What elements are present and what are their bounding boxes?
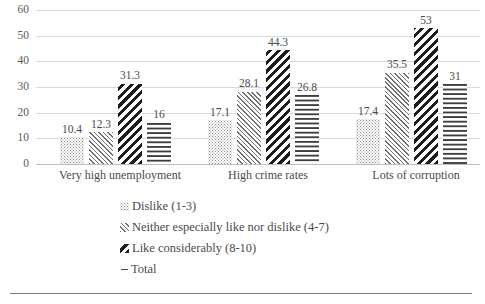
y-tick-label: 20 [18,107,30,119]
y-tick-label: 0 [23,158,29,170]
bar-neither[interactable] [89,132,113,164]
bar-group: 17.1 28.1 44.3 26.8 [204,10,332,164]
bar-total[interactable] [147,123,171,164]
bar-slot[interactable]: 16 [147,10,171,164]
legend-item-dislike[interactable]: Dislike (1-3) [120,196,460,217]
x-label-high-crime-rates: High crime rates [228,168,308,182]
y-tick-label: 40 [18,56,30,68]
y-tick-label: 60 [18,4,30,16]
y-tick-label: 30 [18,81,30,93]
bar-value-label: 26.8 [297,82,317,94]
bar-slot[interactable]: 26.8 [295,10,319,164]
bar-slot[interactable]: 44.3 [266,10,290,164]
dots-swatch-icon [120,202,129,211]
bar-dislike[interactable] [356,119,380,164]
y-axis: 60 50 40 30 20 10 0 [0,0,36,164]
x-axis-labels: Very high unemployment High crime rates … [36,168,480,188]
y-tick-label: 10 [18,133,30,145]
bar-total[interactable] [295,95,319,164]
bar-value-label: 35.5 [387,59,407,71]
gridline-0-baseline [36,164,480,165]
y-tick-label: 50 [18,30,30,42]
bar-slot[interactable]: 17.4 [356,10,380,164]
legend: Dislike (1-3) Neither especially like no… [120,196,460,280]
legend-item-neither[interactable]: Neither especially like nor dislike (4-7… [120,217,460,238]
bar-value-label: 31 [449,71,461,83]
bar-slot[interactable]: 28.1 [237,10,261,164]
legend-label: Total [131,263,157,276]
bar-dislike[interactable] [60,137,84,164]
bar-value-label: 28.1 [239,78,259,90]
bar-value-label: 16 [153,109,165,121]
legend-item-like[interactable]: Like considerably (8-10) [120,238,460,259]
bar-slot[interactable]: 31 [443,10,467,164]
bar-value-label: 31.3 [120,70,140,82]
bar-value-label: 12.3 [91,119,111,131]
legend-item-total[interactable]: Total [120,259,460,280]
x-label-very-high-unemployment: Very high unemployment [59,168,181,182]
bar-group: 10.4 12.3 31.3 16 [56,10,184,164]
bar-value-label: 44.3 [268,37,288,49]
bar-neither[interactable] [385,73,409,164]
bar-slot[interactable]: 53 [414,10,438,164]
bar-like[interactable] [266,50,290,164]
bar-dislike[interactable] [208,120,232,164]
bar-slot[interactable]: 35.5 [385,10,409,164]
legend-label: Like considerably (8-10) [132,242,256,255]
bar-total[interactable] [443,84,467,164]
dash-swatch-icon [121,265,128,274]
chart-figure: 60 50 40 30 20 10 0 10.4 12.3 31. [0,0,485,304]
bar-value-label: 53 [420,15,432,27]
bar-like[interactable] [414,28,438,164]
bar-value-label: 10.4 [62,124,82,136]
legend-label: Dislike (1-3) [132,200,196,213]
bar-value-label: 17.1 [210,107,230,119]
bar-slot[interactable]: 12.3 [89,10,113,164]
bold-hatch-swatch-icon [120,244,129,253]
x-label-lots-of-corruption: Lots of corruption [372,168,459,182]
bar-neither[interactable] [237,92,261,164]
fine-hatch-swatch-icon [120,223,129,232]
bar-like[interactable] [118,84,142,164]
bar-slot[interactable]: 10.4 [60,10,84,164]
bar-slot[interactable]: 17.1 [208,10,232,164]
bar-groups: 10.4 12.3 31.3 16 17.1 28.1 [36,10,480,164]
bottom-divider [10,293,472,294]
bar-group: 17.4 35.5 53 31 [352,10,480,164]
bar-slot[interactable]: 31.3 [118,10,142,164]
legend-label: Neither especially like nor dislike (4-7… [132,221,329,234]
bar-value-label: 17.4 [358,106,378,118]
